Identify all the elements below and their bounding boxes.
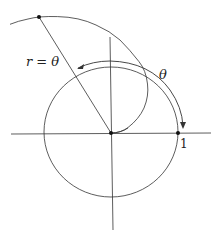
angle-label: θ	[159, 67, 167, 82]
unit-tick-label: 1	[180, 137, 188, 151]
arrowhead-down-icon	[180, 122, 186, 129]
angle-arrow-arc	[78, 61, 183, 126]
spiral-point	[37, 15, 41, 19]
unit-point	[176, 131, 180, 135]
spiral-diagram: r = θ θ 1	[0, 0, 219, 239]
radius-line	[39, 17, 111, 133]
arrowhead-left-icon	[77, 64, 84, 69]
origin-point	[109, 131, 113, 135]
spiral-label: r = θ	[26, 54, 59, 69]
